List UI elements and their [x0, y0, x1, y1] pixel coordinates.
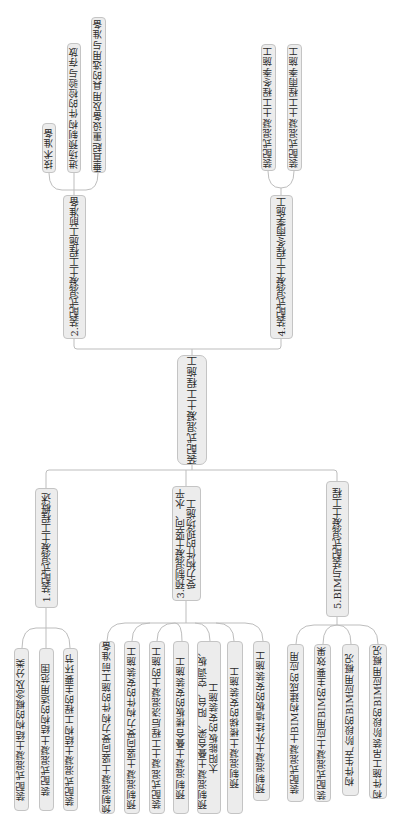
- leaf-label: 预制混凝土竖向受力构件的安装施工: [127, 646, 138, 809]
- leaf-label: 装配式混凝土结构的适用范围: [41, 663, 52, 796]
- leaf-technical-prep[interactable]: 技术准备: [42, 123, 56, 173]
- branch-label: 3.预制混凝土竖向、水平 受力构件的现场施工: [175, 489, 198, 599]
- leaf-label: 进场预制构件的检验与存放: [69, 47, 80, 169]
- leaf-bim-modeling[interactable]: 装配式混凝土BIM构建成的应用: [287, 644, 304, 802]
- branch-label: 4.装配式混凝土工程冬雨季施工: [276, 197, 288, 337]
- mind-map: 装配式混凝土工程施工 2.装配式混凝土工程施工前准备 技术准备 进场预制构件的检…: [0, 0, 414, 829]
- leaf-label: 装配式混凝土结构工程的主要环节: [65, 653, 76, 806]
- branch-4-winter-rainy-season[interactable]: 4.装配式混凝土工程冬雨季施工: [270, 195, 293, 339]
- branch-3-onsite-construction[interactable]: 3.预制混凝土竖向、水平 受力构件的现场施工: [172, 486, 201, 601]
- leaf-label: 预制混凝土外挂墙板的安装施工: [256, 650, 267, 793]
- leaf-lifting-equipment[interactable]: 垂直起重设备及用具的选用与准备: [91, 17, 106, 173]
- branch-2-preparation[interactable]: 2.装配式混凝土工程施工前准备: [63, 195, 86, 339]
- branch-5-bim[interactable]: 5.BIM与装配式混凝土工程: [326, 481, 349, 617]
- leaf-label: 装配式混凝土工程冬季施工: [263, 46, 274, 168]
- leaf-winter-construction[interactable]: 装配式混凝土工程冬季施工: [261, 44, 276, 171]
- leaf-composite-slab[interactable]: 预制混凝土叠合楼板的安装施工: [173, 641, 189, 814]
- leaf-label: 装配式混凝土工程雨季施工: [289, 46, 300, 168]
- leaf-label: 装配式混凝土结构的概念及分类: [16, 658, 27, 801]
- branch-label: 2.装配式混凝土工程施工前准备: [69, 197, 81, 337]
- branch-1-overview[interactable]: 1.装配式混凝土工程概述: [35, 488, 58, 608]
- leaf-component-inspection[interactable]: 进场预制构件的检验与存放: [67, 43, 81, 173]
- leaf-label: 构件施工吊装阶段的BIM应用概况: [373, 645, 384, 799]
- leaf-label: 预制混凝土叠合梁、阳台、空调板、 太阳能板的安装施工: [198, 646, 220, 809]
- leaf-label: 构件生产阶段的BIM应用概况: [345, 653, 356, 786]
- leaf-scope-of-application[interactable]: 装配式混凝土结构的适用范围: [39, 648, 54, 811]
- leaf-label: 预制混凝土楼梯的安装施工: [230, 666, 241, 788]
- leaf-rainy-construction[interactable]: 装配式混凝土工程雨季施工: [287, 44, 302, 171]
- leaf-bim-production[interactable]: 构件生产阶段的BIM应用概况: [342, 644, 359, 796]
- leaf-stair-installation[interactable]: 预制混凝土楼梯的安装施工: [227, 641, 243, 814]
- leaf-label: 垂直起重设备及用具的选用与准备: [93, 19, 104, 172]
- leaf-bim-effects[interactable]: 装配式混凝土应用BIM的主要效果: [314, 644, 331, 802]
- root-label: 装配式混凝土工程施工: [186, 355, 198, 465]
- leaf-cladding-panel[interactable]: 预制混凝土外挂墙板的安装施工: [253, 641, 270, 801]
- leaf-cast-in-place[interactable]: 装配式混凝土工程后浇混凝土的施工: [149, 641, 165, 814]
- leaf-vertical-installation[interactable]: 预制混凝土竖向受力构件的安装施工: [124, 641, 140, 814]
- leaf-label: 预制混凝土竖向受力构件的施工前准备: [102, 641, 113, 814]
- leaf-main-stages[interactable]: 装配式混凝土结构工程的主要环节: [63, 648, 78, 811]
- leaf-concept-classification[interactable]: 装配式混凝土结构的概念及分类: [14, 648, 29, 811]
- leaf-label: 装配式混凝土工程后浇混凝土的施工: [152, 646, 163, 809]
- root-node[interactable]: 装配式混凝土工程施工: [177, 355, 207, 465]
- leaf-label: 装配式混凝土BIM构建成的应用: [290, 651, 301, 794]
- leaf-label: 装配式混凝土应用BIM的主要效果: [317, 646, 328, 800]
- leaf-vertical-prep[interactable]: 预制混凝土竖向受力构件的施工前准备: [99, 641, 115, 814]
- leaf-beam-balcony-panel[interactable]: 预制混凝土叠合梁、阳台、空调板、 太阳能板的安装施工: [197, 641, 221, 814]
- branch-label: 5.BIM与装配式混凝土工程: [332, 488, 344, 609]
- leaf-label: 技术准备: [44, 128, 55, 169]
- branch-label: 1.装配式混凝土工程概述: [41, 493, 53, 603]
- leaf-label: 预制混凝土叠合楼板的安装施工: [176, 656, 187, 799]
- leaf-bim-hoisting[interactable]: 构件施工吊装阶段的BIM应用概况: [369, 644, 387, 799]
